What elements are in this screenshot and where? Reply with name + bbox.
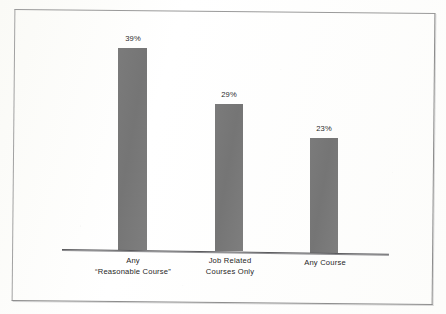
x-axis-tick-label-2-line1: Any Course [304, 258, 346, 267]
bar-value-label-1: 29% [210, 90, 248, 99]
bar-any-reasonable-course [118, 48, 147, 250]
x-axis-tick-label-0: Any “Reasonable Course” [72, 256, 194, 277]
chart-page: 39% 29% 23% Any “Reasonable Course” Job … [0, 0, 446, 314]
x-axis-tick-label-2: Any Course [287, 258, 363, 269]
x-axis-tick-label-1: Job Related Courses Only [185, 256, 275, 277]
bar-value-label-0: 39% [114, 34, 152, 43]
bar-any-course [310, 138, 338, 253]
bar-value-label-2: 23% [305, 124, 343, 133]
x-axis-tick-label-1-line2: Courses Only [185, 267, 275, 278]
x-axis-tick-label-0-line2: “Reasonable Course” [72, 267, 194, 278]
x-axis-tick-label-1-line1: Job Related [209, 256, 252, 265]
x-axis-tick-label-0-line1: Any [126, 256, 140, 265]
plot-area: 39% 29% 23% Any “Reasonable Course” Job … [0, 0, 446, 314]
bar-job-related-courses-only [215, 104, 243, 251]
